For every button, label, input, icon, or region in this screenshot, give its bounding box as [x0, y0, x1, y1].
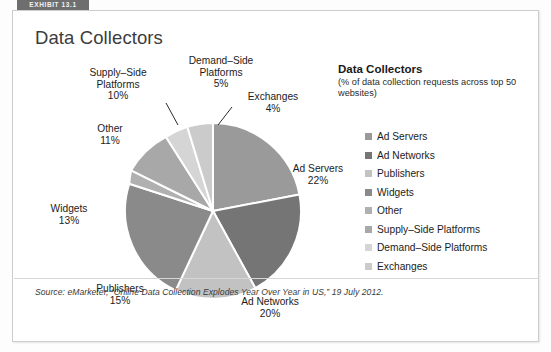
legend-item-other[interactable]: Other	[338, 201, 538, 220]
exhibit-figure: EXHIBIT 13.1 Data Collectors	[0, 0, 551, 352]
exhibit-number-tab: EXHIBIT 13.1	[17, 0, 89, 10]
source-note: Source: eMarketer, “Online Data Collecti…	[35, 287, 384, 297]
pie-label-exchanges: Exchanges 4%	[236, 91, 310, 114]
figure-card: Data Collectors	[12, 10, 539, 342]
legend-item-label: Demand–Side Platforms	[377, 242, 487, 253]
legend-swatch-icon	[365, 133, 372, 140]
legend-item-supply-side-platforms[interactable]: Supply–Side Platforms	[338, 220, 538, 239]
legend-item-ad-servers[interactable]: Ad Servers	[338, 127, 538, 146]
legend-swatch-icon	[365, 152, 372, 159]
pie-label-ad-networks: Ad Networks 20%	[225, 296, 315, 319]
legend-swatch-icon	[365, 226, 372, 233]
pie-label-other: Other 11%	[80, 123, 140, 146]
legend-subtitle: (% of data collection requests across to…	[338, 77, 523, 99]
legend-swatch-icon	[365, 263, 372, 270]
pie-label-supply-side-platforms: Supply–Side Platforms 10%	[70, 67, 166, 102]
footer-divider	[14, 278, 539, 279]
legend-title: Data Collectors	[338, 63, 538, 75]
legend-swatch-icon	[365, 207, 372, 214]
legend-item-publishers[interactable]: Publishers	[338, 164, 538, 183]
legend-swatch-icon	[365, 170, 372, 177]
leader-line-demand-side	[166, 103, 178, 125]
legend: Data Collectors (% of data collection re…	[338, 63, 538, 275]
pie-slices	[125, 123, 301, 299]
pie-chart: Supply–Side Platforms 10% Demand–Side Pl…	[18, 51, 338, 301]
pie-label-demand-side-platforms: Demand–Side Platforms 5%	[173, 55, 269, 90]
legend-list: Ad Servers Ad Networks Publishers Widget…	[338, 127, 538, 275]
legend-item-exchanges[interactable]: Exchanges	[338, 257, 538, 276]
legend-item-label: Exchanges	[377, 261, 427, 272]
legend-item-label: Supply–Side Platforms	[377, 224, 480, 235]
legend-item-label: Ad Networks	[377, 150, 435, 161]
legend-item-label: Other	[377, 205, 402, 216]
legend-item-label: Publishers	[377, 168, 425, 179]
legend-item-ad-networks[interactable]: Ad Networks	[338, 146, 538, 165]
legend-item-widgets[interactable]: Widgets	[338, 183, 538, 202]
pie-leader-lines	[166, 103, 232, 125]
legend-item-label: Widgets	[377, 187, 414, 198]
legend-item-demand-side-platforms[interactable]: Demand–Side Platforms	[338, 238, 538, 257]
leader-line-exchanges	[218, 107, 232, 125]
legend-item-label: Ad Servers	[377, 131, 427, 142]
legend-swatch-icon	[365, 189, 372, 196]
legend-swatch-icon	[365, 244, 372, 251]
page-title: Data Collectors	[35, 27, 163, 49]
pie-label-widgets: Widgets 13%	[36, 203, 102, 226]
